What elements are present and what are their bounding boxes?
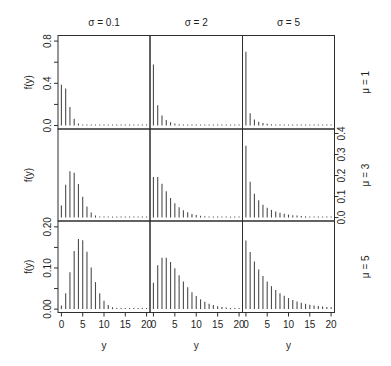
x-axis-label: y xyxy=(286,340,291,351)
panel-mu1-sigma0_1 xyxy=(58,36,150,130)
x-tick-label: 15 xyxy=(120,319,132,330)
y-axis-right: 0.00.10.20.30.4 xyxy=(335,126,348,224)
column-title: σ = 5 xyxy=(277,17,301,28)
y-tick-label: 0.0 xyxy=(43,118,54,132)
x-tick-label: 0 xyxy=(243,319,249,330)
x-axis-label: y xyxy=(102,340,107,351)
x-tick-label: 0 xyxy=(151,319,157,330)
y-axis-label: f(y) xyxy=(23,168,34,182)
panel-grid-chart: σ = 0.105101520yσ = 205101520yσ = 505101… xyxy=(0,0,391,366)
y-axis-label: f(y) xyxy=(23,260,34,274)
panel-frame xyxy=(150,129,243,221)
panel-frame xyxy=(58,221,150,313)
y-axis-left: 0.00.40.8 xyxy=(43,34,59,133)
x-tick-label: 5 xyxy=(264,319,270,330)
x-tick-label: 10 xyxy=(191,319,203,330)
x-tick-label: 15 xyxy=(304,319,316,330)
panel-mu5-sigma2 xyxy=(150,221,243,313)
y-tick-label: 0.1 xyxy=(336,189,347,203)
x-tick-label: 15 xyxy=(212,319,224,330)
x-axis: 05101520 xyxy=(151,313,245,331)
x-tick-label: 5 xyxy=(80,319,86,330)
y-tick-label: 0.00 xyxy=(43,299,54,319)
figure: σ = 0.105101520yσ = 205101520yσ = 505101… xyxy=(0,0,391,366)
x-axis: 05101520 xyxy=(59,313,153,331)
x-tick-label: 10 xyxy=(283,319,295,330)
panel-frame xyxy=(243,36,335,130)
panel-mu3-sigma5 xyxy=(243,129,335,221)
row-strip-label: μ = 3 xyxy=(360,163,371,186)
y-tick-label: 0.3 xyxy=(336,147,347,161)
x-axis-label: y xyxy=(194,340,199,351)
panel-mu5-sigma0_1 xyxy=(58,221,150,313)
column-title: σ = 2 xyxy=(185,17,209,28)
y-axis-left: 0.000.100.20 xyxy=(43,217,59,319)
panel-mu3-sigma2 xyxy=(150,129,243,221)
y-tick-label: 0.10 xyxy=(43,258,54,278)
panel-frame xyxy=(243,129,335,221)
panel-frame xyxy=(58,129,150,221)
column-title: σ = 0.1 xyxy=(88,17,120,28)
x-tick-label: 20 xyxy=(326,319,338,330)
y-tick-label: 0.4 xyxy=(336,126,347,140)
y-tick-label: 0.0 xyxy=(336,210,347,224)
y-tick-label: 0.8 xyxy=(43,34,54,48)
y-tick-label: 0.20 xyxy=(43,217,54,237)
panel-mu1-sigma2 xyxy=(150,36,243,130)
x-axis: 05101520 xyxy=(243,313,337,331)
y-axis-label: f(y) xyxy=(23,75,34,89)
y-tick-label: 0.2 xyxy=(336,168,347,182)
x-tick-label: 5 xyxy=(172,319,178,330)
panel-frame xyxy=(150,36,243,130)
x-tick-label: 0 xyxy=(59,319,65,330)
panel-mu3-sigma0_1 xyxy=(58,129,150,221)
y-tick-label: 0.4 xyxy=(43,76,54,90)
row-strip-label: μ = 5 xyxy=(360,255,371,278)
panel-mu1-sigma5 xyxy=(243,36,335,130)
panel-frame xyxy=(58,36,150,130)
row-strip-label: μ = 1 xyxy=(360,70,371,93)
x-tick-label: 10 xyxy=(98,319,110,330)
panel-mu5-sigma5 xyxy=(243,221,335,313)
